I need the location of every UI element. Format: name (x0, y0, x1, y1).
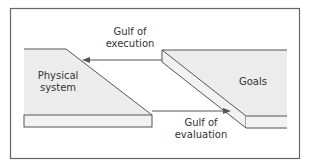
execution-label-line1: Gulf of (95, 26, 165, 38)
physical-system-label-line2: system (28, 82, 88, 94)
physical-system-label-line1: Physical (28, 70, 88, 82)
evaluation-label-line2: evaluation (166, 129, 236, 141)
physical-system-label: Physical system (28, 70, 88, 94)
evaluation-label-line1: Gulf of (166, 117, 236, 129)
goals-label-text: Goals (228, 76, 278, 88)
goals-label: Goals (228, 76, 278, 88)
evaluation-label: Gulf of evaluation (166, 117, 236, 141)
execution-label: Gulf of execution (95, 26, 165, 50)
execution-label-line2: execution (95, 38, 165, 50)
